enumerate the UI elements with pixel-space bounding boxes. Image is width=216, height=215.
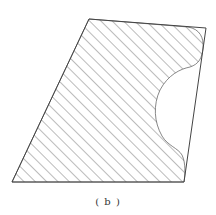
- hatched-region: [0, 0, 216, 215]
- section-diagram: [0, 0, 216, 215]
- figure-caption: ( b ): [0, 196, 216, 207]
